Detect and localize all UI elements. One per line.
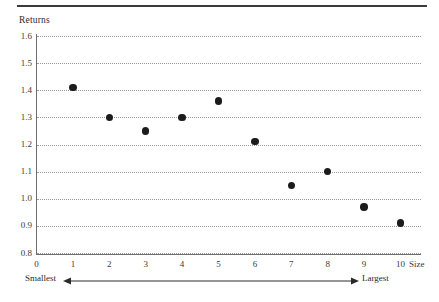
x-axis-tick-label: 2 <box>99 259 119 269</box>
x-axis-tick-label: 1 <box>63 259 83 269</box>
smallest-label: Smallest <box>25 273 56 283</box>
gridline <box>37 63 421 64</box>
data-point <box>251 138 258 145</box>
data-point <box>288 182 295 189</box>
gridline <box>37 117 421 118</box>
gridline <box>37 90 421 91</box>
x-axis-tick-label: 0 <box>27 259 47 269</box>
y-axis-tick-label: 1.2 <box>8 139 32 149</box>
x-axis-tick-label: 7 <box>281 259 301 269</box>
data-point <box>178 114 185 121</box>
x-axis-tick-label: 8 <box>318 259 338 269</box>
gridline <box>37 226 421 227</box>
data-point <box>360 203 367 210</box>
y-axis-tick-label: 1.5 <box>8 58 32 68</box>
y-axis-tick-label: 1.6 <box>8 31 32 41</box>
x-axis-title: Size <box>409 259 425 269</box>
plot-area: 1.61.51.41.31.21.11.00.90.8 012345678910 <box>0 0 439 302</box>
data-point <box>215 97 222 104</box>
x-axis-tick-label: 9 <box>354 259 374 269</box>
y-axis-tick-label: 1.4 <box>8 85 32 95</box>
x-axis-tick-label: 3 <box>136 259 156 269</box>
y-axis-tick-label: 0.8 <box>8 248 32 258</box>
chart-figure: Returns 1.61.51.41.31.21.11.00.90.8 0123… <box>0 0 439 302</box>
data-point <box>69 84 76 91</box>
size-direction-annotation: Smallest Largest <box>0 273 439 289</box>
x-axis-tick-label: 4 <box>172 259 192 269</box>
data-point <box>397 219 404 226</box>
double-headed-arrow-icon <box>63 275 359 287</box>
y-axis-tick-label: 0.9 <box>8 220 32 230</box>
data-point <box>106 114 113 121</box>
data-point <box>142 127 149 134</box>
x-axis-tick-label: 5 <box>209 259 229 269</box>
data-point <box>324 168 331 175</box>
x-axis-tick-label: 10 <box>391 259 411 269</box>
gridline <box>37 36 421 37</box>
x-axis-tick-label: 6 <box>245 259 265 269</box>
x-axis-line <box>36 254 421 255</box>
y-axis-tick-label: 1.1 <box>8 166 32 176</box>
largest-label: Largest <box>362 273 389 283</box>
gridline <box>37 145 421 146</box>
y-axis-line <box>36 34 37 255</box>
y-axis-tick-label: 1.0 <box>8 193 32 203</box>
y-axis-tick-label: 1.3 <box>8 112 32 122</box>
gridline <box>37 199 421 200</box>
gridline <box>37 172 421 173</box>
